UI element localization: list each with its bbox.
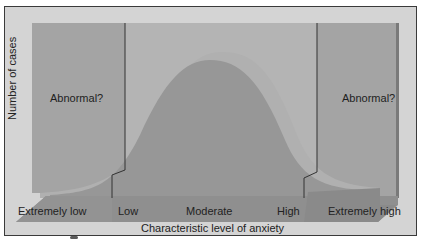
- right-abnormal-label: Abnormal?: [342, 92, 395, 104]
- y-axis-label: Number of cases: [6, 37, 18, 120]
- left-abnormal-label: Abnormal?: [50, 92, 103, 104]
- left-abnormal-panel: [32, 23, 125, 193]
- x-tick-low: Low: [118, 205, 138, 217]
- right-abnormal-panel: [317, 23, 398, 198]
- x-axis-label: Characteristic level of anxiety: [141, 222, 284, 234]
- x-tick-moderate: Moderate: [186, 205, 232, 217]
- right-panel-edge: [396, 23, 399, 198]
- x-tick-extremely-high: Extremely high: [328, 205, 401, 217]
- x-tick-extremely-low: Extremely low: [18, 205, 86, 217]
- x-tick-high: High: [277, 205, 300, 217]
